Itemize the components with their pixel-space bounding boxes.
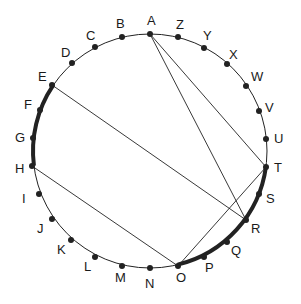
point-labels: AZYXWVUTSRQPONMLKJIHGFEDCB bbox=[15, 13, 283, 291]
point-F bbox=[37, 107, 43, 113]
label-C: C bbox=[86, 28, 95, 43]
label-X: X bbox=[229, 47, 238, 62]
point-S bbox=[256, 191, 262, 197]
label-G: G bbox=[15, 130, 25, 145]
label-L: L bbox=[84, 259, 91, 274]
point-G bbox=[30, 135, 36, 141]
point-Z bbox=[175, 34, 181, 40]
point-Y bbox=[201, 45, 207, 51]
label-K: K bbox=[57, 242, 66, 257]
point-W bbox=[243, 83, 249, 89]
label-Z: Z bbox=[176, 17, 184, 32]
label-E: E bbox=[38, 69, 47, 84]
label-N: N bbox=[145, 276, 154, 291]
thick-arcs bbox=[33, 86, 266, 265]
point-U bbox=[263, 136, 269, 142]
label-H: H bbox=[15, 161, 24, 176]
point-D bbox=[69, 60, 75, 66]
label-Y: Y bbox=[203, 28, 212, 43]
point-Q bbox=[224, 239, 230, 245]
point-N bbox=[147, 265, 153, 271]
point-K bbox=[68, 237, 74, 243]
point-L bbox=[92, 254, 98, 260]
label-S: S bbox=[266, 191, 275, 206]
point-I bbox=[36, 191, 42, 197]
label-J: J bbox=[37, 221, 44, 236]
point-O bbox=[175, 263, 181, 269]
point-B bbox=[119, 34, 125, 40]
point-A bbox=[147, 31, 153, 37]
label-T: T bbox=[274, 160, 282, 175]
point-T bbox=[263, 164, 269, 170]
point-H bbox=[29, 163, 35, 169]
chord-H-O bbox=[32, 166, 178, 266]
label-O: O bbox=[176, 270, 186, 285]
label-I: I bbox=[22, 191, 26, 206]
label-D: D bbox=[61, 45, 70, 60]
diagram-canvas: AZYXWVUTSRQPONMLKJIHGFEDCB bbox=[0, 0, 301, 304]
label-W: W bbox=[251, 69, 264, 84]
label-P: P bbox=[205, 260, 214, 275]
label-A: A bbox=[147, 13, 156, 28]
point-R bbox=[243, 217, 249, 223]
point-V bbox=[256, 108, 262, 114]
point-C bbox=[92, 44, 98, 50]
label-F: F bbox=[24, 97, 32, 112]
label-Q: Q bbox=[231, 243, 241, 258]
label-U: U bbox=[274, 131, 283, 146]
point-E bbox=[49, 82, 55, 88]
point-M bbox=[119, 263, 125, 269]
point-J bbox=[49, 216, 55, 222]
label-M: M bbox=[115, 270, 126, 285]
circle-diagram: AZYXWVUTSRQPONMLKJIHGFEDCB bbox=[0, 0, 301, 304]
label-V: V bbox=[265, 100, 274, 115]
thick-arc-E-H bbox=[33, 86, 53, 166]
label-R: R bbox=[251, 221, 260, 236]
label-B: B bbox=[116, 16, 125, 31]
